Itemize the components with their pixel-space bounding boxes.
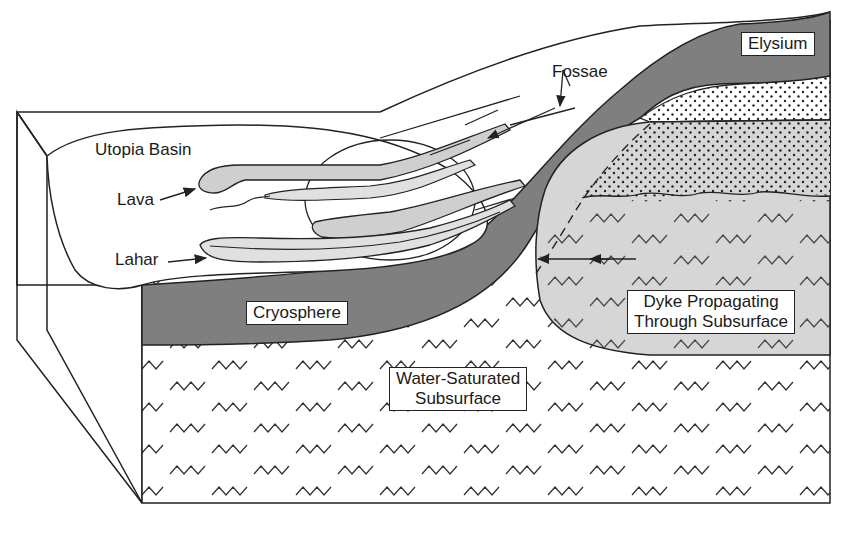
elysium-label: Elysium [741,32,815,56]
cryosphere-label: Cryosphere [246,301,348,325]
lava-label: Lava [117,190,154,210]
utopia-basin-label: Utopia Basin [95,140,191,160]
water-saturated-line1: Water-Saturated [396,369,520,389]
dyke-line1: Dyke Propagating [634,292,788,312]
dyke-propagating-label: Dyke Propagating Through Subsurface [627,290,795,334]
water-saturated-line2: Subsurface [396,389,520,409]
water-saturated-subsurface-label: Water-Saturated Subsurface [389,367,527,411]
flow-direction-arrow [488,108,555,138]
fossae-label: Fossae [552,62,608,82]
lahar-label: Lahar [115,250,158,270]
dyke-line2: Through Subsurface [634,312,788,332]
